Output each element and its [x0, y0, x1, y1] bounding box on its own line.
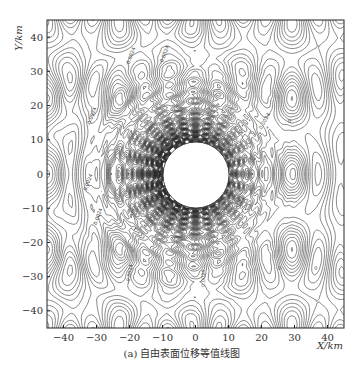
svg-text:20: 20 — [255, 332, 268, 343]
svg-text:0: 0 — [37, 169, 43, 180]
figure-caption: (a) 自由表面位移等值线图 — [0, 345, 364, 360]
svg-text:30: 30 — [288, 332, 301, 343]
svg-text:−20: −20 — [22, 237, 43, 248]
svg-text:−30: −30 — [86, 332, 107, 343]
contour-label: 0.0024 — [92, 207, 104, 225]
svg-text:0: 0 — [192, 332, 198, 343]
svg-text:10: 10 — [222, 332, 235, 343]
island-obstacle — [163, 142, 229, 208]
contour-label: 0.0024 — [125, 46, 137, 64]
contour-label: 0.0024 — [82, 173, 94, 191]
contour-label: 0 — [314, 265, 317, 271]
contour-label: -0.0024 — [125, 264, 134, 284]
svg-text:40: 40 — [30, 32, 43, 43]
contour-chart: −40−30−20−10010203040 −40−30−20−10010203… — [0, 0, 364, 380]
svg-text:10: 10 — [30, 134, 43, 145]
contour-label: -0.0024 — [158, 45, 170, 65]
contour-label: 0 — [278, 265, 281, 271]
contour-label: 0.0024 — [200, 269, 206, 287]
y-axis-label: Y/km — [13, 25, 24, 51]
svg-text:−10: −10 — [152, 332, 173, 343]
svg-text:20: 20 — [30, 100, 43, 111]
svg-text:−30: −30 — [22, 271, 43, 282]
contour-label: 0 — [288, 118, 291, 124]
contour-label: 0.0024 — [257, 112, 271, 130]
svg-text:−10: −10 — [22, 203, 43, 214]
y-axis-ticks: −40−30−20−10010203040 — [22, 32, 50, 317]
svg-text:−40: −40 — [53, 332, 74, 343]
svg-text:−40: −40 — [22, 305, 43, 316]
svg-text:30: 30 — [30, 66, 43, 77]
svg-text:−20: −20 — [119, 332, 140, 343]
